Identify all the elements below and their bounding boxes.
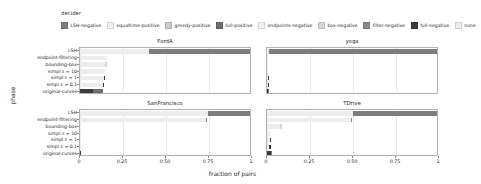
legend-swatch-icon xyxy=(107,22,114,29)
bar-row[interactable] xyxy=(267,110,437,117)
bar-row[interactable] xyxy=(267,144,437,151)
bar-row[interactable] xyxy=(267,61,437,68)
bar-segment[interactable] xyxy=(80,49,149,54)
bar-row[interactable] xyxy=(80,144,250,151)
bar-row[interactable] xyxy=(80,117,250,124)
subplot-yoga: yoga xyxy=(266,47,438,94)
bar-row[interactable] xyxy=(267,75,437,82)
bar-segment[interactable] xyxy=(80,76,104,81)
legend-item-label: endpoints-negative xyxy=(268,23,313,28)
bar-row[interactable] xyxy=(80,150,250,156)
bar-segment[interactable] xyxy=(80,131,81,136)
y-tick-label: simpl ε = 1 xyxy=(51,137,77,142)
bar-segment[interactable] xyxy=(80,138,81,143)
y-tick-label: bounding-box xyxy=(45,123,77,128)
bar-row[interactable] xyxy=(80,68,250,75)
plot-area xyxy=(79,47,251,94)
bar-segment[interactable] xyxy=(80,145,81,150)
bar-segment[interactable] xyxy=(353,111,438,116)
legend-item[interactable]: endpoints-negative xyxy=(258,22,312,29)
x-tick-label: 1 xyxy=(436,159,439,164)
bar-row[interactable] xyxy=(267,123,437,130)
x-tick-label: 0.25 xyxy=(117,159,128,164)
bar-segment[interactable] xyxy=(267,69,268,74)
legend-item[interactable]: none xyxy=(455,22,476,29)
bar-segment[interactable] xyxy=(80,56,107,61)
y-tick-label: simpl ε = 0.1 xyxy=(47,143,77,148)
legend-item[interactable]: full-negative xyxy=(411,22,450,29)
bar-segment[interactable] xyxy=(268,89,269,94)
y-tick-label: simpl ε = 0.1 xyxy=(47,81,77,86)
bar-segment[interactable] xyxy=(268,83,269,88)
bar-row[interactable] xyxy=(80,110,250,117)
bar-segment[interactable] xyxy=(80,151,81,156)
bar-row[interactable] xyxy=(80,82,250,89)
bar-row[interactable] xyxy=(267,55,437,62)
x-tick-label: 0.50 xyxy=(347,159,358,164)
bar-segment[interactable] xyxy=(80,62,105,67)
x-tick-mark xyxy=(79,156,80,158)
bar-segment[interactable] xyxy=(269,49,438,54)
bar-row[interactable] xyxy=(267,68,437,75)
bar-segment[interactable] xyxy=(103,83,104,88)
bar-segment[interactable] xyxy=(267,118,351,123)
x-tick-label: 1 xyxy=(249,159,252,164)
bar-segment[interactable] xyxy=(80,69,105,74)
y-tick-label: LSH xyxy=(68,110,77,115)
plot-area xyxy=(266,109,438,156)
bar-row[interactable] xyxy=(80,88,250,94)
bar-segment[interactable] xyxy=(80,118,206,123)
bar-segment[interactable] xyxy=(206,118,207,123)
bar-row[interactable] xyxy=(267,150,437,156)
bar-segment[interactable] xyxy=(280,124,282,129)
bar-segment[interactable] xyxy=(268,76,269,81)
bar-row[interactable] xyxy=(80,137,250,144)
bar-row[interactable] xyxy=(267,48,437,55)
bar-row[interactable] xyxy=(267,82,437,89)
x-tick-mark xyxy=(122,156,123,158)
legend-item[interactable]: LSH-negative xyxy=(61,22,101,29)
bar-segment[interactable] xyxy=(267,62,268,67)
legend-item[interactable]: greedy-positive xyxy=(165,22,210,29)
x-tick-label: 0.25 xyxy=(304,159,315,164)
bar-segment[interactable] xyxy=(269,145,271,150)
bar-segment[interactable] xyxy=(271,151,272,156)
bar-row[interactable] xyxy=(80,55,250,62)
bar-segment[interactable] xyxy=(104,76,105,81)
bar-segment[interactable] xyxy=(149,49,251,54)
bar-row[interactable] xyxy=(267,130,437,137)
bar-row[interactable] xyxy=(80,123,250,130)
bar-segment[interactable] xyxy=(267,131,270,136)
bar-row[interactable] xyxy=(80,75,250,82)
subplot-title: SanFrancisco xyxy=(79,100,251,106)
bar-segment[interactable] xyxy=(267,56,268,61)
bar-segment[interactable] xyxy=(80,124,81,129)
x-tick-label: 0.75 xyxy=(203,159,214,164)
legend-title: decider xyxy=(61,10,81,16)
bar-segment[interactable] xyxy=(80,83,103,88)
bar-row[interactable] xyxy=(267,88,437,94)
y-tick-label: LSH xyxy=(68,48,77,53)
bar-segment[interactable] xyxy=(80,89,93,94)
bar-segment[interactable] xyxy=(270,138,271,143)
bar-row[interactable] xyxy=(80,130,250,137)
bar-segment[interactable] xyxy=(267,124,280,129)
bar-segment[interactable] xyxy=(105,62,107,67)
bar-segment[interactable] xyxy=(267,111,353,116)
bar-row[interactable] xyxy=(80,48,250,55)
legend-item[interactable]: filter-negative xyxy=(363,22,405,29)
bar-segment[interactable] xyxy=(351,118,352,123)
legend-swatch-icon xyxy=(411,22,418,29)
legend-item[interactable]: full-positive xyxy=(216,22,253,29)
bar-row[interactable] xyxy=(267,117,437,124)
bar-row[interactable] xyxy=(80,61,250,68)
bar-segment[interactable] xyxy=(208,111,251,116)
legend-item[interactable]: equaltime-positive xyxy=(107,22,160,29)
bar-row[interactable] xyxy=(267,137,437,144)
bar-segment[interactable] xyxy=(80,111,208,116)
subplot-title: FordA xyxy=(79,38,251,44)
bar-segment[interactable] xyxy=(93,89,103,94)
legend: LSH-negativeequaltime-positivegreedy-pos… xyxy=(61,21,481,30)
legend-item-label: full-positive xyxy=(225,23,252,28)
legend-item[interactable]: box-negative xyxy=(318,22,358,29)
